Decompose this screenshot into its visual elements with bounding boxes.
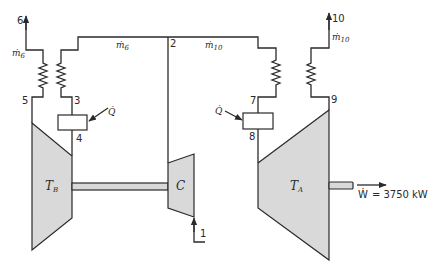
exhaust-line-9-10 <box>307 13 329 110</box>
label-8: 8 <box>249 131 255 142</box>
output-shaft <box>329 182 353 189</box>
label-4: 4 <box>76 133 82 144</box>
label-m10-right: ṁ10 <box>332 32 350 44</box>
label-work-output: Ẇ= 3750 kW <box>358 188 428 200</box>
label-q-right: Q̇ <box>215 105 223 116</box>
label-m6-top: ṁ6 <box>116 40 130 52</box>
label-m10-top: ṁ10 <box>205 40 223 52</box>
heater-box-left <box>58 115 87 130</box>
label-6: 6 <box>17 15 23 26</box>
label-3: 3 <box>74 95 80 106</box>
label-7: 7 <box>250 95 256 106</box>
label-compressor: C <box>176 179 185 193</box>
heater-box-right <box>243 113 273 129</box>
label-m6-left: ṁ6 <box>12 48 26 60</box>
shaft-tb-c <box>72 183 168 190</box>
label-10: 10 <box>332 13 345 24</box>
exhaust-line-5-6 <box>26 16 47 123</box>
heat-arrow-right-icon <box>225 111 242 120</box>
label-9: 9 <box>331 94 337 105</box>
label-q-left: Q̇ <box>108 106 116 117</box>
label-2: 2 <box>170 38 176 49</box>
regenerator-line-2-7 <box>168 37 280 163</box>
heat-arrow-left-icon <box>89 108 108 121</box>
label-1: 1 <box>200 228 206 239</box>
gas-turbine-diagram: 6 10 2 3 5 4 7 9 8 1 ṁ6 ṁ6 ṁ10 ṁ10 Q̇ Q̇… <box>0 0 428 274</box>
label-5: 5 <box>22 95 28 106</box>
